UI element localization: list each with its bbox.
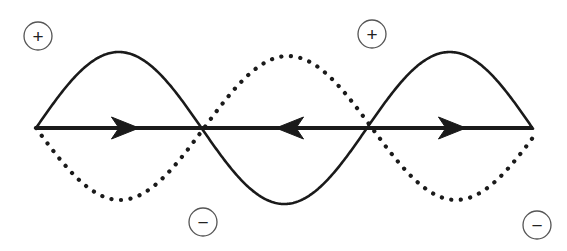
- horizontal-axis: [36, 117, 533, 139]
- polarity-plus-right-symbol: +: [366, 24, 377, 45]
- polarity-plus-left: +: [24, 22, 52, 50]
- polarity-minus-right: −: [523, 211, 551, 239]
- polarity-plus-left-symbol: +: [32, 26, 43, 47]
- polarity-minus-left-symbol: −: [197, 212, 208, 233]
- polarity-minus-right-symbol: −: [531, 215, 542, 236]
- wave-diagram-figure: +−+−: [0, 0, 567, 251]
- wave-diagram-canvas: +−+−: [0, 0, 567, 251]
- polarity-plus-right: +: [358, 20, 386, 48]
- polarity-minus-left: −: [189, 208, 217, 236]
